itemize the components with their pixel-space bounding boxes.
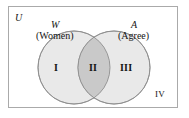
venn-diagram-figure: U W (Women) A (Agree) I II III IV: [0, 0, 189, 118]
venn-diagram-graphic: [0, 0, 189, 118]
region-label-two: II: [89, 63, 97, 73]
region-label-one: I: [54, 63, 58, 73]
universal-set-symbol: U: [15, 13, 22, 23]
right-set-word-label: (Agree): [118, 31, 149, 41]
left-set-symbol: W: [51, 20, 59, 30]
region-label-four: IV: [155, 90, 165, 99]
region-label-three: III: [120, 63, 132, 73]
right-set-symbol: A: [131, 20, 137, 30]
left-set-word-label: (Women): [36, 31, 74, 41]
